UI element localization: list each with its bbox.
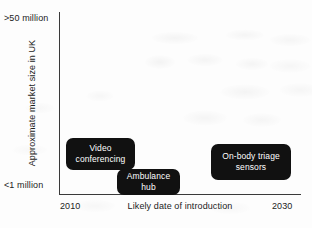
- data-point-label-line-1: Video: [89, 143, 111, 153]
- y-axis-line: [59, 12, 60, 195]
- data-point-label: Videoconferencing: [76, 143, 126, 165]
- data-point-label-line-1: On-body triage: [222, 151, 280, 161]
- data-point-ambulance-hub: Ambulancehub: [117, 169, 180, 195]
- chart-figure: >50 million <1 million Approximate marke…: [0, 0, 312, 228]
- data-point-on-body-triage-sensors: On-body triagesensors: [211, 144, 291, 180]
- data-point-label: Ambulancehub: [127, 171, 170, 193]
- data-point-label-line-2: conferencing: [76, 154, 126, 164]
- x-axis-title: Likely date of introduction: [59, 201, 301, 211]
- y-axis-tick-label-bottom: <1 million: [4, 180, 43, 190]
- data-point-label-line-1: Ambulance: [127, 171, 170, 181]
- data-point-label-line-2: sensors: [236, 162, 266, 172]
- data-point-label-line-2: hub: [141, 182, 155, 192]
- data-point-label: On-body triagesensors: [222, 151, 280, 173]
- x-axis-line: [59, 194, 301, 195]
- y-axis-tick-label-top: >50 million: [4, 13, 48, 23]
- data-point-video-conferencing: Videoconferencing: [66, 138, 135, 170]
- y-axis-title: Approximate market size in UK: [27, 28, 37, 178]
